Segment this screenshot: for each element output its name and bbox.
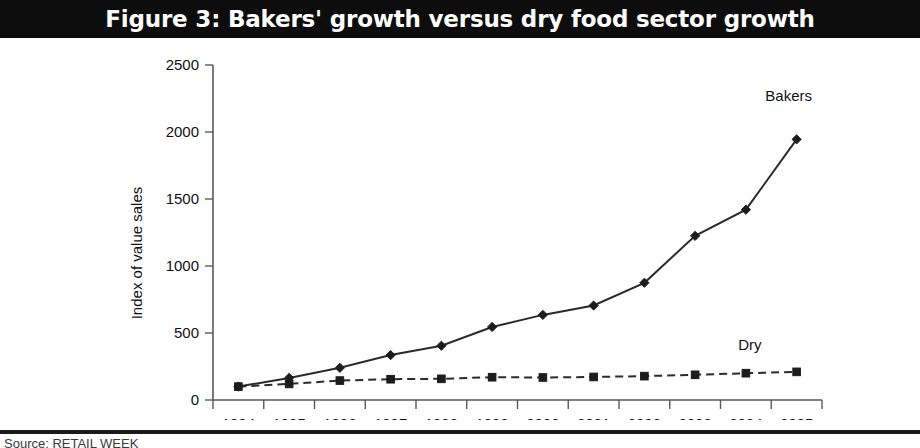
figure-page: Figure 3: Bakers' growth versus dry food… bbox=[0, 0, 920, 448]
figure-title-bar: Figure 3: Bakers' growth versus dry food… bbox=[0, 0, 920, 38]
x-tick-label: 1997 bbox=[374, 415, 407, 420]
y-tick-label: 0 bbox=[191, 391, 199, 408]
data-point-marker-dry bbox=[742, 369, 750, 377]
y-tick-label: 1000 bbox=[166, 257, 199, 274]
data-point-marker-bakers bbox=[589, 301, 598, 310]
x-tick-label: 2000 bbox=[526, 415, 559, 420]
series-label-bakers: Bakers bbox=[765, 87, 812, 104]
data-point-marker-dry bbox=[387, 375, 395, 383]
series-label-dry: Dry bbox=[738, 336, 762, 353]
chart-series-group bbox=[234, 135, 801, 391]
data-point-marker-dry bbox=[235, 383, 243, 391]
y-tick-label: 2000 bbox=[166, 123, 199, 140]
data-point-marker-bakers bbox=[538, 310, 547, 319]
series-line-bakers bbox=[238, 139, 796, 386]
y-tick-label: 2500 bbox=[166, 56, 199, 73]
data-point-marker-dry bbox=[590, 373, 598, 381]
y-tick-label: 1500 bbox=[166, 190, 199, 207]
data-point-marker-bakers bbox=[488, 322, 497, 331]
x-tick-label: 1994 bbox=[222, 415, 255, 420]
data-point-marker-dry bbox=[438, 375, 446, 383]
data-point-marker-dry bbox=[285, 380, 293, 388]
y-tick-label: 500 bbox=[174, 324, 199, 341]
data-point-marker-dry bbox=[336, 377, 344, 385]
x-axis: 1994199519961997199819992000200120022003… bbox=[213, 400, 822, 420]
line-chart: 05001000150020002500 1994199519961997199… bbox=[0, 38, 920, 420]
x-tick-label: 1999 bbox=[475, 415, 508, 420]
y-axis: 05001000150020002500 bbox=[166, 56, 213, 408]
data-point-marker-bakers bbox=[386, 351, 395, 360]
data-point-marker-dry bbox=[691, 371, 699, 379]
source-note: Source: RETAIL WEEK bbox=[4, 436, 504, 448]
chart-plot-region: 05001000150020002500 1994199519961997199… bbox=[0, 38, 920, 420]
footer-divider bbox=[0, 430, 920, 434]
x-tick-label: 1996 bbox=[323, 415, 356, 420]
figure-title: Figure 3: Bakers' growth versus dry food… bbox=[105, 6, 814, 32]
x-tick-label: 2003 bbox=[678, 415, 711, 420]
series-line-dry bbox=[238, 372, 796, 387]
data-point-marker-dry bbox=[641, 372, 649, 380]
data-point-marker-dry bbox=[793, 368, 801, 376]
data-point-marker-bakers bbox=[335, 363, 344, 372]
x-tick-label: 2005 bbox=[780, 415, 813, 420]
data-point-marker-dry bbox=[539, 374, 547, 382]
x-tick-label: 2002 bbox=[628, 415, 661, 420]
data-point-marker-bakers bbox=[437, 341, 446, 350]
x-tick-label: 2001 bbox=[577, 415, 610, 420]
y-axis-title: Index of value sales bbox=[128, 187, 145, 320]
chart-series-labels: BakersDry bbox=[738, 87, 812, 352]
x-tick-label: 1995 bbox=[272, 415, 305, 420]
x-tick-label: 2004 bbox=[729, 415, 762, 420]
x-tick-label: 1998 bbox=[425, 415, 458, 420]
data-point-marker-dry bbox=[488, 373, 496, 381]
